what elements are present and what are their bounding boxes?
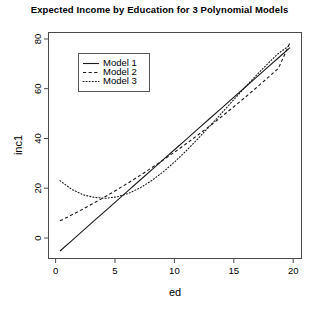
y-tick-labels: 80 60 40 20 0: [32, 34, 43, 241]
x-tick-label: 15: [229, 265, 240, 276]
y-tick-label: 80: [32, 34, 43, 45]
x-tick-label: 10: [169, 265, 180, 276]
x-tick-label: 0: [53, 265, 58, 276]
plot-canvas: 80 60 40 20 0 inc1 0 5 10 15 20 ed: [0, 0, 319, 310]
y-tick-label: 60: [32, 83, 43, 94]
y-axis-title: inc1: [12, 135, 24, 155]
y-tick-label: 20: [32, 183, 43, 194]
legend[interactable]: Model 1 Model 2 Model 3: [79, 54, 150, 92]
y-tick-label: 40: [32, 133, 43, 144]
legend-label-model-3: Model 3: [103, 75, 137, 86]
x-tick-labels: 0 5 10 15 20: [53, 265, 299, 276]
y-axis-ticks: [44, 39, 49, 238]
x-tick-label: 20: [288, 265, 299, 276]
chart-page: Expected Income by Education for 3 Polyn…: [0, 0, 319, 310]
y-tick-label: 0: [32, 235, 43, 240]
x-axis-ticks: [56, 259, 294, 264]
x-axis-title: ed: [169, 286, 181, 298]
x-tick-label: 5: [112, 265, 117, 276]
